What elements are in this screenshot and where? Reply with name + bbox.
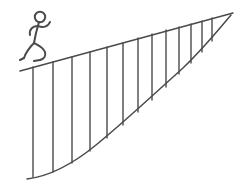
figure-front-foot <box>34 60 40 61</box>
illustration-canvas: Stick figure running up a ramp made of r… <box>0 0 248 189</box>
ramp-scene-svg <box>0 0 248 189</box>
